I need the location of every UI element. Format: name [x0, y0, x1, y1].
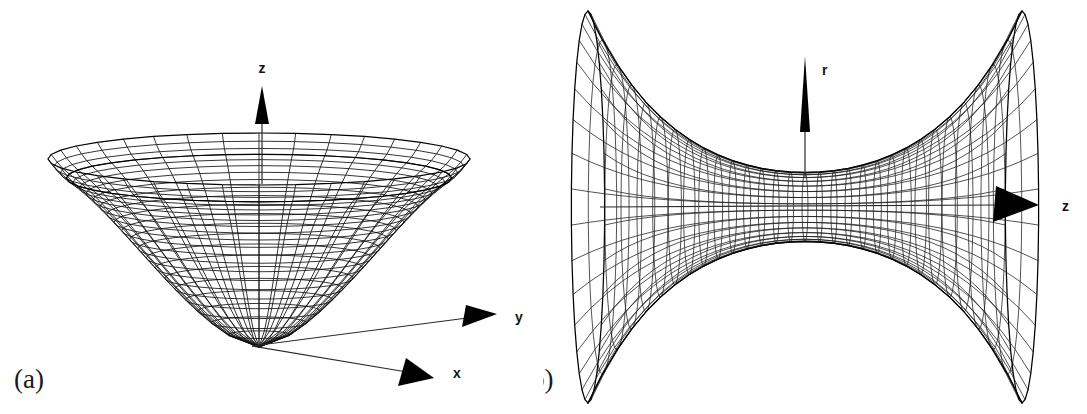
axis-label-z-b: z	[1062, 198, 1069, 214]
axis-label-r: r	[822, 62, 828, 78]
axis-label-y: y	[515, 309, 523, 325]
panel-label-a: (a)	[14, 364, 44, 394]
axis-label-x: x	[453, 365, 461, 381]
axis-label-z: z	[259, 60, 266, 76]
figure-canvas: z y x (a) r	[0, 0, 1087, 414]
figure-background	[0, 0, 1087, 414]
figure-svg: z y x (a) r	[0, 0, 1087, 414]
